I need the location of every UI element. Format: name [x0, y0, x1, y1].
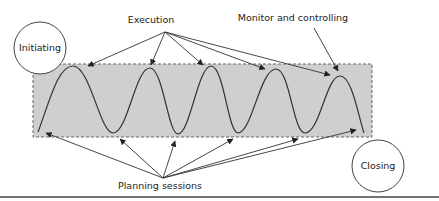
closing-label: Closing	[361, 160, 396, 171]
execution-label: Execution	[128, 14, 175, 25]
initiating-node: Initiating	[14, 22, 66, 74]
initiating-label: Initiating	[19, 42, 61, 53]
planning-label: Planning sessions	[118, 180, 202, 191]
monitor-label: Monitor and controlling	[238, 12, 348, 23]
closing-node: Closing	[352, 140, 404, 192]
project-lifecycle-diagram: Initiating Closing Execution Monitor and…	[0, 0, 439, 201]
